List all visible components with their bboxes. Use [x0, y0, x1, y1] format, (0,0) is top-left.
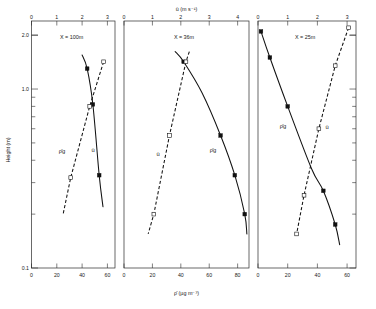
data-point-rho-g [97, 173, 101, 177]
profile-chart: 012302040602.01.00.1X = 100m012340204060… [0, 0, 376, 309]
top-tick-label: 3 [208, 14, 211, 20]
series-curve-u [297, 28, 349, 234]
curve-label-u: ū [91, 147, 94, 153]
bottom-tick-label: 60 [206, 272, 212, 278]
top-tick-label: 3 [346, 14, 349, 20]
panel-3: 01230204060X = 25m [257, 14, 356, 278]
data-point-u [184, 60, 188, 64]
panel-1: 012302040602.01.00.1X = 100m [22, 14, 115, 278]
top-tick-label: 4 [236, 14, 239, 20]
top-tick-label: 0 [30, 14, 33, 20]
data-point-u [152, 212, 156, 216]
curve-label-rho-g: ρ̄g [280, 123, 287, 129]
y-tick-label: 2.0 [22, 32, 29, 38]
top-tick-label: 3 [106, 14, 109, 20]
bottom-tick-label: 80 [235, 272, 241, 278]
data-point-rho-g [233, 173, 237, 177]
figure-container: 012302040602.01.00.1X = 100m012340204060… [0, 0, 376, 309]
panel-label-1: X = 100m [60, 34, 84, 40]
bottom-tick-label: 40 [315, 272, 321, 278]
curve-label-u: ū [325, 124, 328, 130]
data-point-u [102, 60, 106, 64]
bottom-tick-label: 0 [123, 272, 126, 278]
series-curve-rho-g [82, 55, 103, 207]
data-point-u [302, 193, 306, 197]
top-tick-label: 2 [179, 14, 182, 20]
panel-label-3: X = 25m [295, 34, 316, 40]
bottom-axis-title: ρ̄ (µg m⁻³) [174, 290, 199, 296]
bottom-tick-label: 40 [178, 272, 184, 278]
panel-2-frame [124, 21, 249, 268]
top-tick-label: 1 [55, 14, 58, 20]
data-point-u [69, 176, 73, 180]
bottom-tick-label: 60 [105, 272, 111, 278]
data-point-rho-g [259, 30, 263, 34]
data-point-rho-g [243, 212, 247, 216]
bottom-tick-label: 40 [79, 272, 85, 278]
panel-3-frame [258, 21, 356, 268]
top-axis-title: ū (m s⁻¹) [176, 6, 198, 12]
bottom-tick-label: 0 [30, 272, 33, 278]
data-point-rho-g [268, 56, 272, 60]
top-tick-label: 1 [286, 14, 289, 20]
data-point-u [347, 26, 351, 30]
curve-label-rho-g: ρ̄g [210, 147, 217, 153]
series-curve-u [148, 52, 189, 234]
y-axis-title: Height (m) [5, 137, 11, 162]
data-point-u [168, 134, 172, 138]
chart-root: 012302040602.01.00.1X = 100m012340204060… [5, 6, 356, 297]
curve-label-u: ū [156, 151, 159, 157]
panel-2: 01234020406080X = 36m [123, 14, 249, 278]
panel-label-2: X = 36m [174, 34, 195, 40]
top-tick-label: 2 [81, 14, 84, 20]
data-point-u [295, 232, 299, 236]
series-curve-u [63, 62, 103, 214]
data-point-u [88, 105, 92, 109]
panel-1-frame [32, 21, 116, 268]
data-point-rho-g [286, 105, 290, 109]
top-tick-label: 0 [123, 14, 126, 20]
top-tick-label: 2 [316, 14, 319, 20]
top-tick-label: 0 [257, 14, 260, 20]
bottom-tick-label: 20 [285, 272, 291, 278]
bottom-tick-label: 60 [344, 272, 350, 278]
series-curve-rho-g [175, 52, 247, 234]
bottom-tick-label: 0 [257, 272, 260, 278]
top-tick-label: 1 [151, 14, 154, 20]
data-point-rho-g [321, 189, 325, 193]
data-point-rho-g [333, 223, 337, 227]
bottom-tick-label: 20 [54, 272, 60, 278]
y-tick-label: 0.1 [22, 265, 29, 271]
bottom-tick-label: 20 [150, 272, 156, 278]
data-point-u [317, 127, 321, 131]
data-point-u [333, 64, 337, 68]
data-point-rho-g [85, 67, 89, 71]
data-point-rho-g [219, 134, 223, 138]
y-tick-label: 1.0 [22, 86, 29, 92]
curve-label-rho-g: ρ̄g [59, 148, 66, 154]
